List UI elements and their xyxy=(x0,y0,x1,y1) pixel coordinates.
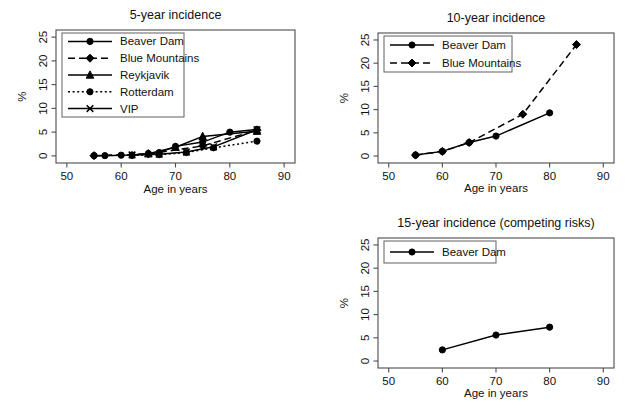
legend-marker xyxy=(409,42,415,48)
chart-fifteen-year: 15-year incidence (competing risks)50607… xyxy=(326,205,632,405)
x-tick-label: 70 xyxy=(490,375,503,387)
legend-label: Blue Mountains xyxy=(120,52,200,64)
data-point xyxy=(547,110,553,116)
y-tick-label: 15 xyxy=(359,80,371,93)
y-tick-label: 10 xyxy=(359,308,371,321)
x-tick-label: 60 xyxy=(436,375,449,387)
series-line xyxy=(416,113,550,155)
series-beaver-dam xyxy=(412,110,552,158)
y-tick-label: 0 xyxy=(37,153,49,159)
data-point xyxy=(412,151,420,159)
y-tick-label: 25 xyxy=(359,34,371,47)
y-tick-label: 25 xyxy=(37,31,49,44)
x-tick-label: 50 xyxy=(382,170,395,182)
data-point xyxy=(439,347,445,353)
legend-marker xyxy=(87,38,93,44)
x-tick-label: 80 xyxy=(543,170,556,182)
y-tick-label: 0 xyxy=(359,358,371,364)
x-axis-title: Age in years xyxy=(464,387,528,399)
y-axis-title: % xyxy=(338,93,350,103)
legend-label: Beaver Dam xyxy=(120,35,184,47)
x-axis-title: Age in years xyxy=(464,182,528,194)
data-point xyxy=(493,332,499,338)
y-axis-title: % xyxy=(16,91,28,101)
chart-title: 5-year incidence xyxy=(130,8,222,22)
chart-panel-fifteen-year: 15-year incidence (competing risks)50607… xyxy=(326,205,632,405)
x-tick-label: 60 xyxy=(115,170,128,182)
y-tick-label: 15 xyxy=(359,285,371,298)
legend-label: VIP xyxy=(120,103,139,115)
chart-panel-five-year: 5-year incidence50607080900510152025Age … xyxy=(0,0,320,208)
x-tick-label: 80 xyxy=(223,170,236,182)
x-tick-label: 50 xyxy=(60,170,73,182)
y-tick-label: 25 xyxy=(359,239,371,252)
x-axis-title: Age in years xyxy=(144,183,208,195)
x-tick-label: 70 xyxy=(169,170,182,182)
x-tick-label: 50 xyxy=(382,375,395,387)
y-tick-label: 15 xyxy=(37,78,49,91)
series-beaver-dam xyxy=(439,324,552,353)
legend-label: Beaver Dam xyxy=(442,246,506,258)
chart-title: 10-year incidence xyxy=(447,11,546,25)
data-point xyxy=(90,152,98,160)
data-point xyxy=(519,110,527,118)
chart-panel-ten-year: 10-year incidence50607080900510152025Age… xyxy=(326,0,632,200)
legend-label: Blue Mountains xyxy=(442,57,522,69)
data-point xyxy=(465,139,473,147)
plot-area xyxy=(439,324,552,353)
legend-label: Rotterdam xyxy=(120,86,174,98)
y-tick-label: 10 xyxy=(359,103,371,116)
y-tick-label: 0 xyxy=(359,153,371,159)
chart-ten-year: 10-year incidence50607080900510152025Age… xyxy=(326,0,632,200)
data-point xyxy=(254,138,260,144)
y-tick-label: 20 xyxy=(37,54,49,67)
incidence-figure: 5-year incidence50607080900510152025Age … xyxy=(0,0,632,408)
y-tick-label: 5 xyxy=(359,335,371,341)
plot-area xyxy=(90,126,261,159)
y-tick-label: 5 xyxy=(359,130,371,136)
y-axis-title: % xyxy=(338,298,350,308)
chart-title: 15-year incidence (competing risks) xyxy=(397,216,594,230)
y-tick-label: 10 xyxy=(37,102,49,115)
legend-marker xyxy=(409,249,415,255)
x-tick-label: 70 xyxy=(490,170,503,182)
x-tick-label: 90 xyxy=(278,170,291,182)
x-tick-label: 80 xyxy=(543,375,556,387)
x-tick-label: 90 xyxy=(597,170,610,182)
legend-label: Reykjavik xyxy=(120,69,169,81)
x-tick-label: 90 xyxy=(597,375,610,387)
legend-marker xyxy=(87,89,93,95)
y-tick-label: 20 xyxy=(359,57,371,70)
data-point xyxy=(547,324,553,330)
y-tick-label: 5 xyxy=(37,129,49,135)
data-point xyxy=(493,133,499,139)
legend-label: Beaver Dam xyxy=(442,39,506,51)
chart-five-year: 5-year incidence50607080900510152025Age … xyxy=(0,0,320,208)
x-tick-label: 60 xyxy=(436,170,449,182)
data-point xyxy=(438,147,446,155)
y-tick-label: 20 xyxy=(359,262,371,275)
